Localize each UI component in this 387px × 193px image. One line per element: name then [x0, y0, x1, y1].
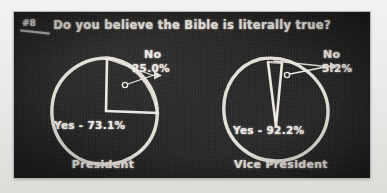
chalkboard-slide: #8 Do you believe the Bible is literally…	[14, 12, 370, 178]
vice-slice-divider-right	[276, 63, 282, 126]
president-slice-divider-top	[106, 59, 107, 111]
vice-president-pie-svg	[206, 40, 356, 178]
vice-slice-divider-left	[268, 62, 276, 126]
vice-leader-anchor-dot	[284, 72, 289, 77]
vice-pie-outline	[224, 58, 328, 161]
page-title: Do you believe the Bible is literally tr…	[14, 18, 370, 32]
pie-chart-vice-president: No 5.2% Yes - 92.2% Vice President	[206, 40, 356, 178]
slide-number-underline	[20, 29, 50, 34]
president-slice-divider-right	[106, 111, 158, 113]
president-leader-line-secondary	[107, 59, 155, 76]
screenshot-root: #8 Do you believe the Bible is literally…	[0, 0, 387, 193]
vice-leader-arrow-icon	[330, 62, 338, 71]
slide-number-label: #8	[22, 18, 36, 28]
pie-chart-president: No 25.0% Yes - 73.1% President	[28, 40, 178, 178]
president-leader-arrow-icon	[154, 71, 162, 80]
president-pie-svg	[28, 40, 178, 178]
president-leader-anchor-dot	[122, 82, 127, 87]
